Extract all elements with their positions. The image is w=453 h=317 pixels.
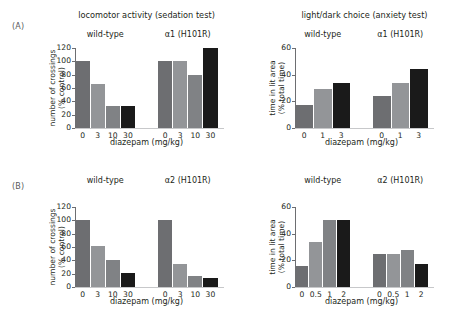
y-tick-mark	[292, 207, 295, 208]
x-axis-line	[75, 128, 224, 129]
group-title-b-lightdark-0: wild-type	[283, 176, 363, 185]
bar	[121, 106, 135, 128]
bar	[337, 220, 350, 287]
y-tick-mark	[292, 128, 295, 129]
bar	[415, 264, 428, 287]
y-axis-label-a-lightdark: time in lit area(% total time)	[268, 48, 286, 128]
y-tick-mark	[72, 48, 75, 49]
y-axis-label-line1: number of crossings	[48, 207, 57, 287]
y-axis-label-line2: (% total time)	[277, 48, 286, 128]
y-tick-mark	[72, 207, 75, 208]
y-tick-mark	[292, 101, 295, 102]
y-axis-label-a-locomotor: number of crossings(% control)	[48, 48, 66, 128]
x-axis-line	[75, 287, 224, 288]
bar	[333, 83, 351, 128]
group-title-a-locomotor-1: α1 (H101R)	[146, 30, 231, 39]
bar	[91, 246, 105, 287]
bar	[188, 75, 202, 128]
bar	[203, 278, 217, 287]
group-title-b-locomotor-0: wild-type	[63, 176, 148, 185]
group-title-b-lightdark-1: α2 (H101R)	[361, 176, 441, 185]
x-axis-label-b-locomotor: diazepam (mg/kg)	[75, 297, 218, 306]
bar	[410, 69, 428, 128]
x-axis-label-a-locomotor: diazepam (mg/kg)	[75, 138, 218, 147]
bar	[373, 96, 391, 128]
group-title-a-lightdark-0: wild-type	[283, 30, 363, 39]
y-tick-mark	[72, 287, 75, 288]
bar	[106, 106, 120, 128]
y-axis-label-line1: time in lit area	[268, 207, 277, 287]
plot-area-a-lightdark: 0204060013013	[295, 48, 428, 128]
bar	[203, 48, 217, 128]
y-axis-label-line1: time in lit area	[268, 48, 277, 128]
y-tick-mark	[292, 234, 295, 235]
bar	[106, 260, 120, 287]
bar	[392, 83, 410, 128]
plot-area-b-locomotor: 020406080100120031030031030	[75, 207, 218, 287]
group-title-a-lightdark-1: α1 (H101R)	[361, 30, 441, 39]
bar	[296, 105, 314, 128]
chart-title-a-lightdark: light/dark choice (anxiety test)	[283, 10, 446, 20]
y-axis-label-b-lightdark: time in lit area(% total time)	[268, 207, 286, 287]
plot-area-a-locomotor: 020406080100120031030031030	[75, 48, 218, 128]
y-tick-mark	[72, 128, 75, 129]
figure-root: (A)locomotor activity (sedation test)020…	[0, 0, 453, 317]
y-axis-label-line2: (% control)	[57, 207, 66, 287]
bar	[76, 61, 90, 128]
bar	[121, 273, 135, 287]
x-axis-line	[295, 128, 434, 129]
chart-title-a-locomotor: locomotor activity (sedation test)	[60, 10, 233, 20]
y-tick-mark	[292, 260, 295, 261]
y-tick-mark	[292, 287, 295, 288]
bar	[158, 61, 172, 128]
x-axis-label-a-lightdark: diazepam (mg/kg)	[295, 138, 428, 147]
group-title-a-locomotor-0: wild-type	[63, 30, 148, 39]
bar	[188, 276, 202, 287]
bar	[401, 250, 414, 287]
bar	[158, 220, 172, 287]
bar	[373, 254, 386, 287]
x-axis-label-b-lightdark: diazepam (mg/kg)	[295, 297, 428, 306]
plot-area-b-lightdark: 020406000.51200.512	[295, 207, 428, 287]
panel-letter-b: (B)	[12, 182, 24, 191]
y-axis-label-line2: (% control)	[57, 48, 66, 128]
panel-letter-a: (A)	[12, 22, 24, 31]
y-tick-mark	[292, 75, 295, 76]
y-axis-label-b-locomotor: number of crossings(% control)	[48, 207, 66, 287]
y-tick-mark	[292, 48, 295, 49]
bar	[296, 266, 309, 287]
y-axis-label-line2: (% total time)	[277, 207, 286, 287]
group-title-b-locomotor-1: α2 (H101R)	[146, 176, 231, 185]
bar	[314, 89, 332, 128]
bar	[323, 220, 336, 287]
bar	[309, 242, 322, 287]
bar	[173, 61, 187, 128]
bar	[76, 220, 90, 287]
bar	[173, 264, 187, 287]
bar	[387, 254, 400, 287]
x-axis-line	[295, 287, 434, 288]
y-axis-label-line1: number of crossings	[48, 48, 57, 128]
bar	[91, 84, 105, 128]
